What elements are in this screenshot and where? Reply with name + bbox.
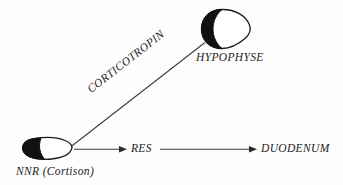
arrowhead-to-duodenum [249, 146, 257, 153]
node-label-hypophyse: HYPOPHYSE [196, 52, 264, 64]
diagram-vector-layer [0, 0, 343, 185]
nnr-glyph [23, 137, 72, 159]
node-label-nnr: NNR (Cortison) [16, 166, 94, 178]
diagram-canvas: HYPOPHYSE NNR (Cortison) RES DUODENUM CO… [0, 0, 343, 185]
node-label-duodenum: DUODENUM [261, 143, 330, 155]
node-label-res: RES [131, 143, 152, 155]
hypophyse-glyph [202, 10, 251, 49]
arrowhead-to-res [119, 146, 127, 153]
